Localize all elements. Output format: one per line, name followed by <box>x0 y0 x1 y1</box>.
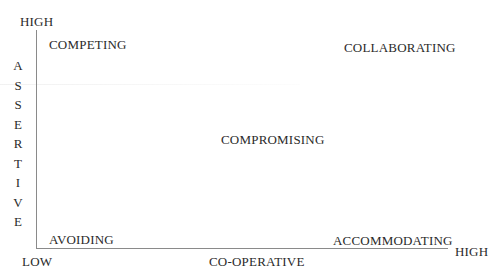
y-axis-letter: S <box>11 95 25 115</box>
y-axis-low-label: LOW <box>22 254 52 270</box>
x-axis-title: CO-OPERATIVE <box>209 254 305 270</box>
region-collaborating: COLLABORATING <box>344 40 456 56</box>
region-avoiding: AVOIDING <box>49 232 114 248</box>
y-axis-high-label: HIGH <box>20 14 53 30</box>
y-axis-letter: E <box>11 115 25 135</box>
y-axis-title: A S S E R T I V E <box>11 56 25 232</box>
x-axis-high-label: HIGH <box>455 244 488 260</box>
y-axis-letter: V <box>11 193 25 213</box>
y-axis-letter: R <box>11 134 25 154</box>
region-compromising: COMPROMISING <box>221 132 325 148</box>
y-axis-letter: A <box>11 56 25 76</box>
region-accommodating: ACCOMMODATING <box>333 233 453 249</box>
y-axis-letter: E <box>11 212 25 232</box>
y-axis-line <box>36 30 37 249</box>
y-axis-letter: T <box>11 154 25 174</box>
scan-artifact <box>0 84 300 85</box>
y-axis-letter: S <box>11 76 25 96</box>
y-axis-letter: I <box>11 173 25 193</box>
region-competing: COMPETING <box>49 37 127 53</box>
